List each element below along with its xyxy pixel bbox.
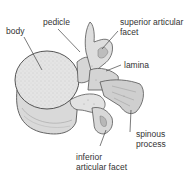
vertebra-diagram: body pedicle superior articular facet la… — [0, 0, 186, 179]
leader-pedicle — [58, 29, 80, 52]
label-spinous-line2: process — [136, 140, 166, 150]
label-superior-facet-line2: facet — [120, 28, 138, 38]
label-inferior-facet-line2: articular facet — [76, 163, 127, 173]
label-body: body — [6, 27, 24, 37]
leader-lamina — [106, 65, 121, 71]
vertebral-body-top — [15, 51, 79, 109]
label-pedicle: pedicle — [43, 18, 70, 28]
spinous-process — [100, 80, 143, 114]
label-lamina: lamina — [124, 61, 149, 71]
